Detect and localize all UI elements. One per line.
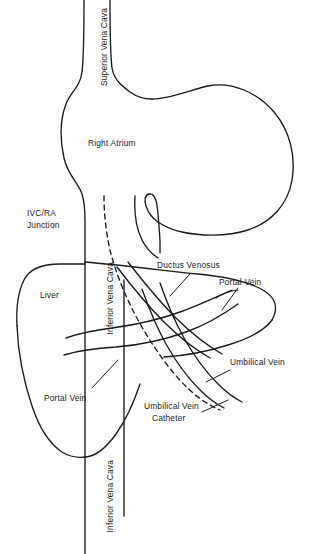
- svc-right-wall: [110, 0, 152, 99]
- label-portal-vein-right: Portal Vein: [219, 277, 261, 288]
- leader-ductus-venosus: [170, 274, 190, 296]
- label-superior-vena-cava: Superior Vena Cava: [99, 8, 110, 86]
- portal-vein-branch: [216, 290, 238, 298]
- leader-portal-vein-left: [92, 360, 118, 388]
- ra-floor-hook: [145, 194, 160, 253]
- portal-vein-upper-wall: [66, 290, 232, 338]
- umbilical-vein-right-wall: [160, 283, 242, 402]
- anatomy-diagram: Superior Vena Cava Right Atrium IVC/RA J…: [0, 0, 320, 554]
- ductus-venosus-upper-wall: [117, 267, 210, 358]
- liver-inferior-border: [86, 384, 140, 457]
- umbilical-vein-left-wall: [142, 289, 224, 408]
- label-right-atrium: Right Atrium: [88, 138, 136, 149]
- label-liver: Liver: [40, 290, 59, 301]
- label-portal-vein-left: Portal Vein: [44, 393, 86, 404]
- label-umbilical-vein-catheter-line1: Umbilical Vein: [144, 401, 199, 412]
- label-ductus-venosus: Ductus Venosus: [157, 260, 220, 271]
- label-umbilical-vein: Umbilical Vein: [230, 357, 285, 368]
- svc-ra-ivc-left-wall: [61, 0, 85, 554]
- label-umbilical-vein-catheter-line2: Catheter: [152, 413, 185, 424]
- anatomy-line-art: [0, 0, 320, 554]
- label-inferior-vena-cava-upper: Inferior Vena Cava: [105, 262, 116, 334]
- label-ivc-ra-junction-line2: Junction: [27, 220, 60, 231]
- liver-left-border: [17, 326, 86, 457]
- label-inferior-vena-cava-lower: Inferior Vena Cava: [105, 460, 116, 532]
- right-atrium-outline: [152, 85, 293, 235]
- label-ivc-ra-junction-line1: IVC/RA: [27, 208, 56, 219]
- ductus-venosus-lower-wall: [128, 262, 222, 354]
